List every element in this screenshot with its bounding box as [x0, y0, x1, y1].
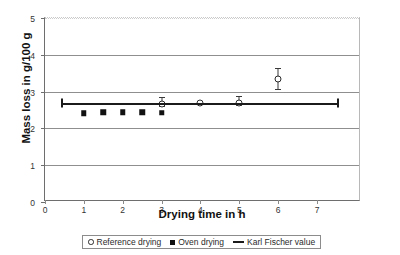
- oven-drying-point: [120, 109, 126, 115]
- y-tick: 4: [41, 55, 45, 56]
- reference-drying-point: [275, 75, 282, 82]
- x-tick: [200, 200, 201, 204]
- y-tick-label: 5: [30, 15, 35, 24]
- legend-entry: Oven drying: [170, 238, 224, 247]
- x-tick: [45, 200, 46, 204]
- oven-drying-point: [139, 109, 145, 115]
- line-swatch-icon: [233, 241, 244, 243]
- plot-area: 012345 01234567: [44, 17, 360, 201]
- error-bar-cap: [159, 97, 165, 98]
- x-tick: [239, 200, 240, 204]
- gridline: [45, 92, 359, 93]
- legend-entry: Reference drying: [88, 238, 161, 247]
- legend-label: Karl Fischer value: [247, 238, 315, 247]
- gridline: [45, 18, 359, 19]
- x-tick: [84, 200, 85, 204]
- x-tick: [278, 200, 279, 204]
- gridline: [45, 55, 359, 56]
- y-tick-label: 0: [30, 199, 35, 208]
- chart-legend: Reference dryingOven dryingKarl Fischer …: [82, 235, 321, 249]
- filled-square-icon: [170, 240, 175, 245]
- error-bar-cap: [236, 96, 242, 97]
- y-tick-label: 4: [30, 52, 35, 61]
- oven-drying-point: [101, 109, 107, 115]
- karl-fischer-line: [62, 103, 338, 105]
- y-tick: 1: [41, 165, 45, 166]
- error-bar-cap: [275, 68, 281, 69]
- chart-figure: Mass loss in g/100 g 012345 01234567 Dry…: [0, 0, 400, 255]
- gridline: [45, 128, 359, 129]
- x-tick: [162, 200, 163, 204]
- y-tick: 3: [41, 92, 45, 93]
- legend-label: Reference drying: [97, 238, 162, 247]
- open-circle-icon: [88, 239, 94, 245]
- x-tick: [123, 200, 124, 204]
- x-axis-title: Drying time in h: [44, 208, 360, 220]
- y-tick-label: 2: [30, 125, 35, 134]
- x-tick: [317, 200, 318, 204]
- oven-drying-point: [81, 111, 87, 117]
- legend-entry: Karl Fischer value: [233, 238, 315, 247]
- legend-label: Oven drying: [178, 238, 224, 247]
- y-tick: 5: [41, 18, 45, 19]
- karl-fischer-line-cap: [61, 98, 63, 107]
- y-tick-label: 3: [30, 88, 35, 97]
- oven-drying-point: [159, 110, 165, 116]
- error-bar-cap: [275, 89, 281, 90]
- gridline: [45, 165, 359, 166]
- y-tick: 2: [41, 128, 45, 129]
- y-tick-label: 1: [30, 162, 35, 171]
- karl-fischer-line-cap: [337, 98, 339, 107]
